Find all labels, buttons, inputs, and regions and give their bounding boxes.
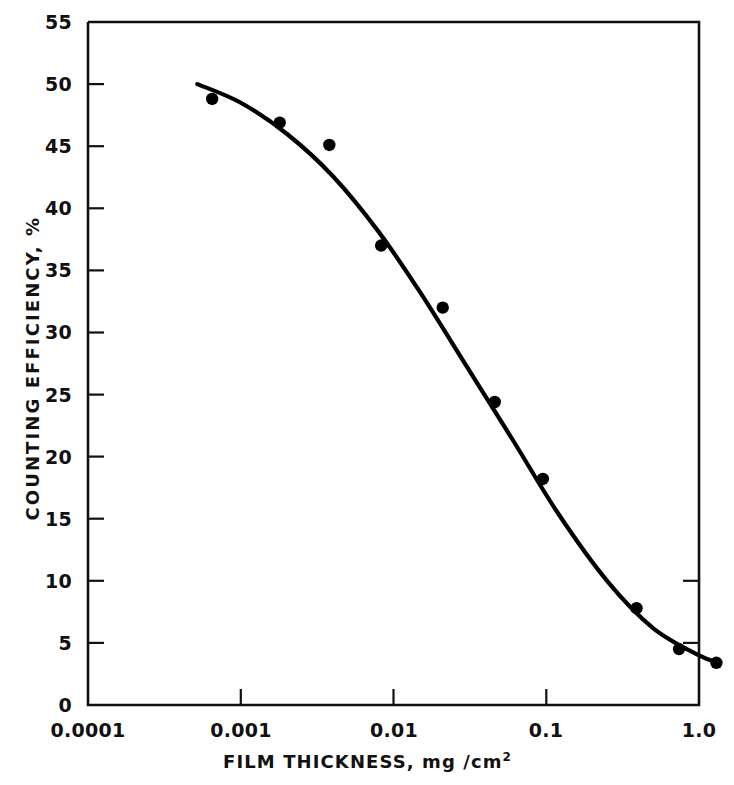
data-point bbox=[206, 93, 218, 105]
data-point bbox=[323, 139, 335, 151]
xtick-label-0.1: 0.1 bbox=[529, 719, 564, 741]
data-point-group bbox=[206, 93, 723, 669]
data-point bbox=[274, 116, 286, 128]
plot-canvas bbox=[0, 0, 734, 785]
data-point bbox=[673, 643, 685, 655]
y-tick-marks bbox=[88, 84, 104, 643]
x-axis-label-exponent: 2 bbox=[503, 750, 511, 764]
xtick-label-0.0001: 0.0001 bbox=[50, 719, 125, 741]
xtick-label-0.01: 0.01 bbox=[370, 719, 418, 741]
fitted-curve bbox=[197, 84, 719, 663]
xtick-label-0.001: 0.001 bbox=[210, 719, 272, 741]
ytick-label-10: 10 bbox=[10, 570, 72, 592]
data-point bbox=[710, 657, 722, 669]
data-point bbox=[375, 239, 387, 251]
ytick-label-0: 0 bbox=[10, 694, 72, 716]
x-axis-label-text: FILM THICKNESS, mg /cm bbox=[223, 751, 503, 772]
data-point bbox=[630, 602, 642, 614]
y-axis-label: COUNTING EFFICIENCY, % bbox=[22, 221, 43, 521]
chart-figure: 55 50 45 40 35 30 25 20 15 10 5 0 0.0001… bbox=[0, 0, 734, 785]
ytick-label-55: 55 bbox=[10, 11, 72, 33]
data-point bbox=[537, 473, 549, 485]
ytick-label-5: 5 bbox=[10, 632, 72, 654]
x-axis-label: FILM THICKNESS, mg /cm2 bbox=[0, 750, 734, 772]
x-tick-marks bbox=[241, 689, 547, 705]
data-point bbox=[489, 396, 501, 408]
ytick-label-50: 50 bbox=[10, 73, 72, 95]
y-tick-marks-right bbox=[683, 581, 699, 643]
data-point bbox=[437, 301, 449, 313]
axes-box bbox=[88, 22, 699, 705]
ytick-label-45: 45 bbox=[10, 135, 72, 157]
xtick-label-1.0: 1.0 bbox=[682, 719, 717, 741]
axes-frame bbox=[88, 22, 699, 705]
